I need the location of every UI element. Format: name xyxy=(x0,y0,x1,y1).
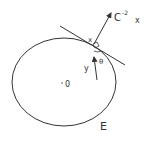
ellipse-label: E xyxy=(100,120,107,133)
angle-arc xyxy=(94,51,101,52)
normal-label-c: C xyxy=(114,12,121,23)
center-dot xyxy=(61,82,62,83)
normal-label-x: x xyxy=(135,16,140,25)
point-x-label: x xyxy=(88,36,92,44)
ellipse-diagram: x C -2 x θ y 0 E xyxy=(0,0,151,141)
y-vector-arrow xyxy=(94,57,97,80)
normal-label-exponent: -2 xyxy=(122,9,128,16)
right-angle-marker xyxy=(93,42,99,48)
vector-y-label: y xyxy=(84,64,89,73)
angle-theta-label: θ xyxy=(99,58,103,66)
center-label: 0 xyxy=(65,80,70,89)
normal-arrow xyxy=(94,13,111,44)
tangent-line xyxy=(60,26,125,65)
